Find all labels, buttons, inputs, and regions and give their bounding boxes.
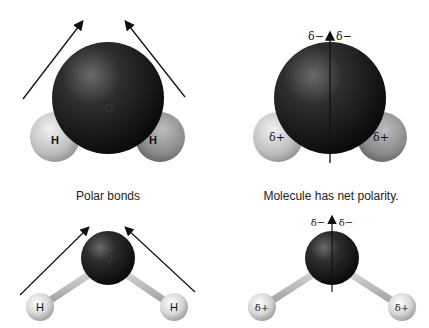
- partial-positive-label-left: δ+: [255, 302, 269, 313]
- hydrogen-label-left: H: [36, 301, 44, 313]
- ball-and-stick-model-net-dipole: [248, 217, 416, 321]
- partial-positive-label-right: δ+: [395, 302, 409, 313]
- hydrogen-label-right: H: [170, 301, 178, 313]
- space-filling-model-bond-dipoles: [23, 22, 185, 162]
- ball-and-stick-model-bond-dipoles: [20, 228, 195, 321]
- partial-positive-label-left: δ+: [269, 131, 285, 144]
- oxygen-label: O: [105, 102, 114, 114]
- partial-negative-label-left: δ−: [308, 30, 324, 43]
- oxygen-atom: [52, 42, 164, 154]
- partial-positive-label-right: δ+: [373, 131, 389, 144]
- water-polarity-diagram: O H H O H H δ− δ− δ+ δ+ δ− δ− δ+ δ+: [0, 0, 429, 328]
- partial-negative-label-left: δ−: [311, 217, 325, 228]
- caption-net-polarity: Molecule has net polarity.: [263, 189, 398, 203]
- hydrogen-label-right: H: [149, 134, 157, 146]
- hydrogen-label-left: H: [51, 134, 59, 146]
- partial-negative-label-right: δ−: [339, 217, 353, 228]
- oxygen-label: O: [104, 252, 113, 264]
- caption-polar-bonds: Polar bonds: [76, 189, 140, 203]
- partial-negative-label-right: δ−: [336, 30, 352, 43]
